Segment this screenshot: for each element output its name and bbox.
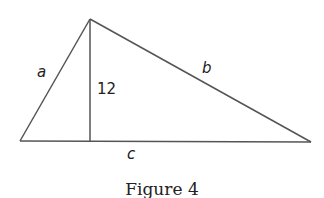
label-altitude: 12 bbox=[97, 80, 116, 98]
label-c: c bbox=[127, 145, 136, 163]
figure-caption: Figure 4 bbox=[125, 179, 198, 198]
label-b: b bbox=[202, 59, 212, 77]
triangle bbox=[20, 19, 311, 142]
side-c-line bbox=[20, 141, 311, 142]
triangle-figure: a 12 b c Figure 4 bbox=[0, 0, 324, 198]
side-b-line bbox=[90, 19, 311, 142]
side-a-line bbox=[20, 19, 90, 141]
label-a: a bbox=[37, 63, 46, 81]
